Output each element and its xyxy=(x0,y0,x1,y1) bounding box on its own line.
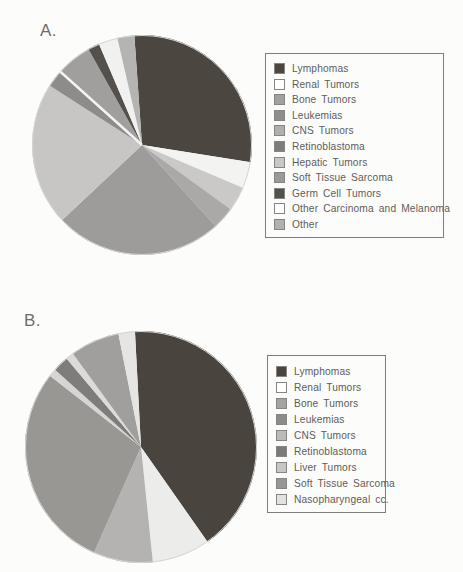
legend-a-item-soft-tissue-sarcoma: Soft Tissue Sarcoma xyxy=(274,170,435,186)
legend-swatch xyxy=(274,110,285,121)
legend-swatch xyxy=(274,157,285,168)
pie-a-slice-lymphomas xyxy=(134,35,252,162)
legend-b-item-cns-tumors: CNS Tumors xyxy=(276,427,377,443)
legend-label: Other xyxy=(292,219,318,230)
legend-a-item-retinoblastoma: Retinoblastoma xyxy=(274,139,435,155)
legend-a-item-hepatic-tumors: Hepatic Tumors xyxy=(274,154,435,170)
legend-swatch xyxy=(274,203,285,214)
legend-swatch xyxy=(274,141,285,152)
legend-b-item-liver-tumors: Liver Tumors xyxy=(276,459,377,475)
legend-label: CNS Tumors xyxy=(294,430,356,441)
legend-label: Lymphomas xyxy=(294,366,350,377)
legend-label: Renal Tumors xyxy=(292,79,359,90)
legend-label: Germ Cell Tumors xyxy=(292,188,381,199)
legend-b-item-renal-tumors: Renal Tumors xyxy=(276,379,377,395)
legend-b-item-leukemias: Leukemias xyxy=(276,411,377,427)
legend-swatch xyxy=(276,366,287,377)
panel-b-label: B. xyxy=(24,311,41,331)
legend-a-item-germ-cell-tumors: Germ Cell Tumors xyxy=(274,185,435,201)
legend-label: Hepatic Tumors xyxy=(292,157,367,168)
legend-swatch xyxy=(274,63,285,74)
figure-canvas: A. LymphomasRenal TumorsBone TumorsLeuke… xyxy=(0,0,463,572)
legend-swatch xyxy=(274,172,285,183)
legend-swatch xyxy=(274,94,285,105)
legend-swatch xyxy=(274,219,285,230)
legend-a: LymphomasRenal TumorsBone TumorsLeukemia… xyxy=(265,53,444,238)
legend-b-item-lymphomas: Lymphomas xyxy=(276,363,377,379)
legend-a-item-leukemias: Leukemias xyxy=(274,108,435,124)
legend-label: Liver Tumors xyxy=(294,462,357,473)
legend-swatch xyxy=(276,398,287,409)
legend-a-item-lymphomas: Lymphomas xyxy=(274,61,435,77)
pie-chart-b xyxy=(23,329,259,565)
legend-label: Renal Tumors xyxy=(294,382,361,393)
legend-label: Bone Tumors xyxy=(294,398,358,409)
legend-swatch xyxy=(276,462,287,473)
legend-label: Leukemias xyxy=(292,110,343,121)
legend-swatch xyxy=(274,188,285,199)
legend-swatch xyxy=(274,125,285,136)
legend-label: Soft Tissue Sarcoma xyxy=(292,172,393,183)
legend-swatch xyxy=(276,446,287,457)
legend-label: Nasopharyngeal cc. xyxy=(294,494,389,505)
legend-b-item-bone-tumors: Bone Tumors xyxy=(276,395,377,411)
legend-b-item-soft-tissue-sarcoma: Soft Tissue Sarcoma xyxy=(276,475,377,491)
legend-label: Retinoblastoma xyxy=(294,446,367,457)
legend-label: Lymphomas xyxy=(292,63,348,74)
legend-a-item-bone-tumors: Bone Tumors xyxy=(274,92,435,108)
legend-a-item-other: Other xyxy=(274,216,435,232)
legend-b: LymphomasRenal TumorsBone TumorsLeukemia… xyxy=(267,355,386,513)
legend-swatch xyxy=(276,414,287,425)
legend-a-item-other-carcinoma-and-melanoma: Other Carcinoma and Melanoma xyxy=(274,201,435,217)
legend-label: Retinoblastoma xyxy=(292,141,365,152)
legend-label: Other Carcinoma and Melanoma xyxy=(292,203,450,214)
legend-label: Bone Tumors xyxy=(292,94,356,105)
pie-chart-a xyxy=(30,33,254,257)
legend-swatch xyxy=(274,79,285,90)
legend-label: CNS Tumors xyxy=(292,125,354,136)
legend-a-item-cns-tumors: CNS Tumors xyxy=(274,123,435,139)
legend-b-item-retinoblastoma: Retinoblastoma xyxy=(276,443,377,459)
legend-swatch xyxy=(276,430,287,441)
legend-swatch xyxy=(276,494,287,505)
legend-swatch xyxy=(276,478,287,489)
legend-b-item-nasopharyngeal-cc: Nasopharyngeal cc. xyxy=(276,491,377,507)
legend-a-item-renal-tumors: Renal Tumors xyxy=(274,77,435,93)
legend-label: Soft Tissue Sarcoma xyxy=(294,478,395,489)
legend-label: Leukemias xyxy=(294,414,345,425)
legend-swatch xyxy=(276,382,287,393)
